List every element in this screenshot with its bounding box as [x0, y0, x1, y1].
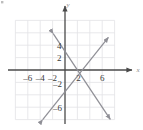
- y-tick-label: –2: [52, 79, 62, 89]
- x-axis-label: x: [135, 66, 140, 74]
- x-tick-label: –6: [22, 73, 33, 83]
- x-tick-labels: –6 –4 –2 2 6: [22, 73, 105, 83]
- x-tick-label: 6: [100, 73, 105, 83]
- axes: [8, 6, 132, 124]
- x-tick-label: 2: [76, 73, 81, 83]
- axis-names: x y: [65, 1, 140, 74]
- corner-artifact: [1, 1, 3, 3]
- y-tick-label: 2: [57, 53, 62, 63]
- y-axis-label: y: [65, 1, 70, 9]
- y-tick-label: –6: [52, 103, 63, 113]
- x-tick-label: –4: [35, 73, 46, 83]
- coordinate-plane-figure: –6 –4 –2 2 6 4 2 –2 –6 x y: [0, 0, 143, 130]
- graph-canvas: –6 –4 –2 2 6 4 2 –2 –6 x y: [0, 0, 143, 130]
- y-tick-label: 4: [57, 41, 62, 51]
